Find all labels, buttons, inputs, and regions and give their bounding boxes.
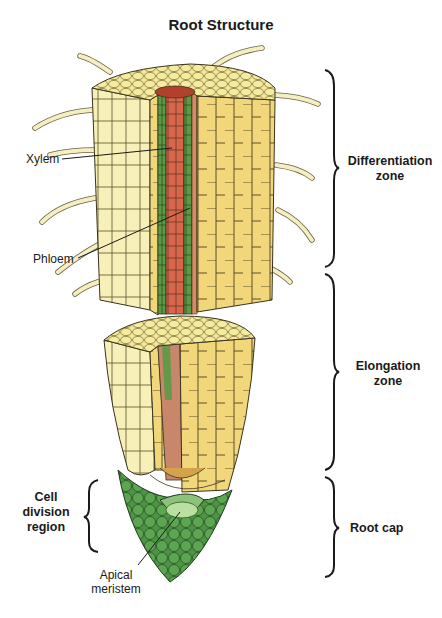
cell-division-line1: Cell: [16, 490, 76, 505]
apical-meristem-line2: meristem: [86, 582, 146, 596]
cell-division-line3: region: [16, 520, 76, 535]
brace-elongation: [325, 274, 339, 470]
elongation-line1: Elongation: [343, 359, 433, 374]
apical-meristem-label: Apical meristem: [86, 568, 146, 596]
differentiation-line1: Differentiation: [340, 154, 440, 169]
cell-division-line2: division: [16, 505, 76, 520]
elongation-zone-label: Elongation zone: [343, 359, 433, 389]
cell-division-region-label: Cell division region: [16, 490, 76, 535]
apical-meristem-line1: Apical: [86, 568, 146, 582]
brace-root-cap: [325, 477, 339, 577]
phloem-label: Phloem: [33, 252, 74, 266]
elongation-line2: zone: [343, 374, 433, 389]
brace-differentiation: [325, 70, 339, 267]
differentiation-line2: zone: [340, 169, 440, 184]
brace-cell-division: [84, 480, 98, 552]
differentiation-zone-label: Differentiation zone: [340, 154, 440, 184]
root-cap-label: Root cap: [350, 521, 430, 536]
xylem-label: Xylem: [26, 152, 59, 166]
